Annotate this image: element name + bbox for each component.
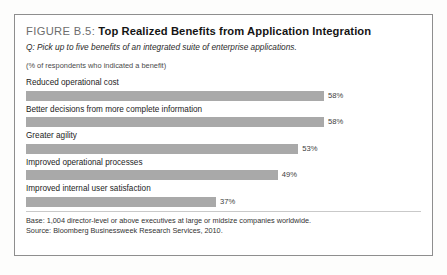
- page-title: Top Realized Benefits from Application I…: [98, 25, 371, 37]
- bar-track: 58%: [26, 117, 421, 127]
- figure-heading: FIGURE B.5: Top Realized Benefits from A…: [26, 24, 421, 38]
- bar-row: Better decisions from more complete info…: [26, 104, 421, 128]
- bar-category-label: Better decisions from more complete info…: [26, 104, 421, 116]
- bar-category-label: Improved internal user satisfaction: [26, 183, 421, 195]
- bar-fill: [26, 197, 216, 207]
- bar-category-label: Improved operational processes: [26, 157, 421, 169]
- figure-unit-note: (% of respondents who indicated a benefi…: [26, 60, 421, 71]
- bar-track: 49%: [26, 170, 421, 180]
- figure-container: FIGURE B.5: Top Realized Benefits from A…: [14, 14, 433, 256]
- footnote-source: Source: Bloomberg Businessweek Research …: [26, 226, 421, 237]
- bar-value-label: 49%: [282, 170, 297, 180]
- bar-fill: [26, 91, 324, 101]
- bar-value-label: 58%: [328, 117, 343, 127]
- figure-question: Q: Pick up to five benefits of an integr…: [26, 41, 421, 53]
- footer-divider: [26, 211, 421, 212]
- bar-value-label: 58%: [328, 91, 343, 101]
- bar-category-label: Greater agility: [26, 130, 421, 142]
- bar-value-label: 53%: [302, 144, 317, 154]
- bar-row: Improved internal user satisfaction 37%: [26, 183, 421, 207]
- bar-category-label: Reduced operational cost: [26, 77, 421, 89]
- bar-chart: Reduced operational cost 58% Better deci…: [26, 77, 421, 207]
- bar-row: Reduced operational cost 58%: [26, 77, 421, 101]
- bar-row: Improved operational processes 49%: [26, 157, 421, 181]
- bar-track: 37%: [26, 197, 421, 207]
- figure-number-label: FIGURE B.5:: [26, 25, 95, 37]
- bar-fill: [26, 144, 298, 154]
- bar-track: 53%: [26, 144, 421, 154]
- bar-row: Greater agility 53%: [26, 130, 421, 154]
- footnote-base: Base: 1,004 director-level or above exec…: [26, 216, 421, 227]
- bar-fill: [26, 117, 324, 127]
- bar-value-label: 37%: [220, 197, 235, 207]
- bar-fill: [26, 170, 278, 180]
- bar-track: 58%: [26, 91, 421, 101]
